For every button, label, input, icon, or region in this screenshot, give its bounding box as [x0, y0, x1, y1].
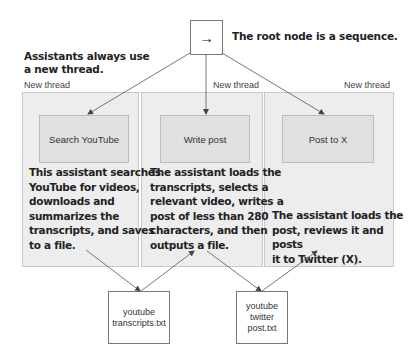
- description-line: transcripts, and saves: [29, 223, 161, 238]
- side-note-line: a new thread.: [24, 63, 150, 76]
- description-line: This assistant searches: [29, 165, 161, 180]
- description-line: it to Twitter (X).: [272, 252, 409, 267]
- description-line: relevant video, writes a: [150, 194, 283, 209]
- description-write-post: The assistant loads the transcripts, sel…: [150, 165, 283, 252]
- thread-label-3: New thread: [344, 80, 390, 90]
- file-name-line: youtube: [123, 307, 155, 318]
- description-line: summarizes the: [29, 209, 161, 224]
- description-line: The assistant loads the: [150, 165, 283, 180]
- file-name-line: youtube: [246, 301, 278, 312]
- description-line: YouTube for videos,: [29, 180, 161, 195]
- task-search-youtube: Search YouTube: [39, 115, 129, 163]
- description-line: post of less than 280: [150, 209, 283, 224]
- description-line: outputs a file.: [150, 238, 283, 253]
- description-line: to a file.: [29, 238, 161, 253]
- task-write-post: Write post: [160, 115, 250, 163]
- thread-label-1: New thread: [24, 80, 70, 90]
- sequence-arrow-icon: →: [199, 29, 214, 46]
- description-line: The assistant loads the: [272, 208, 409, 223]
- side-note-line: Assistants always use: [24, 50, 150, 63]
- description-line: downloads and: [29, 194, 161, 209]
- task-label: Write post: [184, 134, 227, 145]
- root-sequence-node: →: [190, 20, 223, 55]
- description-post-to-x: The assistant loads the post, reviews it…: [272, 208, 409, 266]
- description-line: post, reviews it and posts: [272, 223, 409, 252]
- description-line: transcripts, selects a: [150, 180, 283, 195]
- side-note: Assistants always use a new thread.: [24, 50, 150, 76]
- file-name-line: post.txt: [247, 323, 276, 334]
- task-label: Post to X: [309, 134, 348, 145]
- file-name-line: transcripts.txt: [112, 318, 166, 329]
- file-youtube-transcripts: youtube transcripts.txt: [108, 291, 170, 344]
- task-label: Search YouTube: [49, 134, 119, 145]
- description-line: characters, and then: [150, 223, 283, 238]
- task-post-to-x: Post to X: [282, 115, 374, 163]
- root-annotation: The root node is a sequence.: [232, 30, 398, 43]
- file-name-line: twitter: [250, 312, 274, 323]
- file-youtube-twitter-post: youtube twitter post.txt: [236, 291, 288, 344]
- description-search-youtube: This assistant searches YouTube for vide…: [29, 165, 161, 252]
- thread-label-2: New thread: [213, 80, 259, 90]
